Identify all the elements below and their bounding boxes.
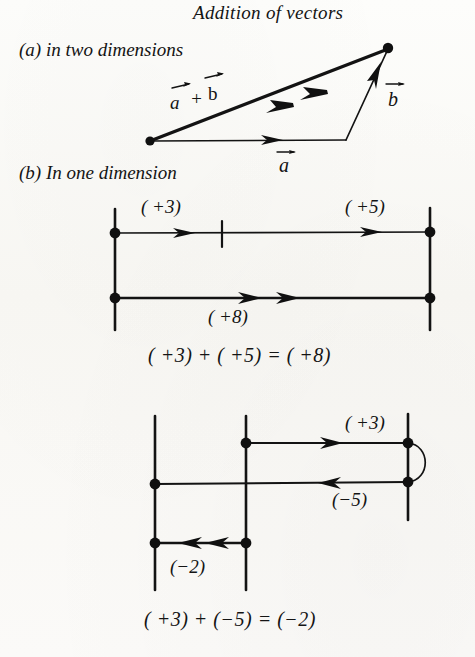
minus5-shaft: [155, 482, 408, 484]
one-dimension-opposite-direction-diagram: [0, 0, 475, 657]
figure-page: Addition of vectors (a) in two dimension…: [0, 0, 475, 657]
label-minus2: (−2): [170, 556, 205, 578]
node-end-plus3: [403, 438, 414, 449]
node-end-minus5: [150, 479, 161, 490]
node-end-minus2: [150, 538, 161, 549]
wrap-around-connector: [408, 443, 425, 482]
label-plus3-bottom: ( +3): [345, 412, 385, 434]
node-start-minus2: [241, 538, 252, 549]
equation-opposite-direction: ( +3) + (−5) = (−2): [144, 609, 316, 629]
label-minus5: (−5): [332, 489, 367, 511]
node-start-plus3: [241, 438, 252, 449]
node-start-minus5: [403, 477, 414, 488]
